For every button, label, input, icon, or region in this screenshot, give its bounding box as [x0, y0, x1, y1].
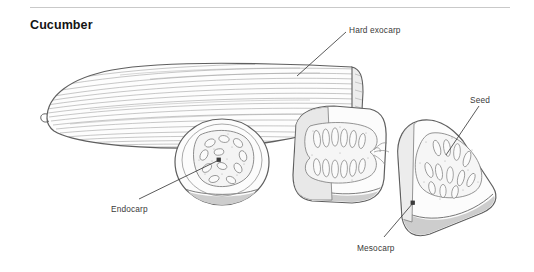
longitudinal-section: [288, 106, 392, 212]
wedge-section: [398, 120, 504, 250]
diagram-page: Cucumber: [0, 0, 534, 272]
label-hard-exocarp: Hard exocarp: [349, 25, 401, 35]
label-mesocarp: Mesocarp: [357, 243, 395, 253]
leader-mesocarp-marker: [411, 201, 414, 204]
cucumber-anatomy-illustration: [0, 0, 534, 272]
label-endocarp: Endocarp: [111, 204, 148, 214]
round-cross-section: [175, 119, 270, 210]
label-seed: Seed: [470, 95, 490, 105]
leader-endocarp-marker: [217, 158, 220, 161]
